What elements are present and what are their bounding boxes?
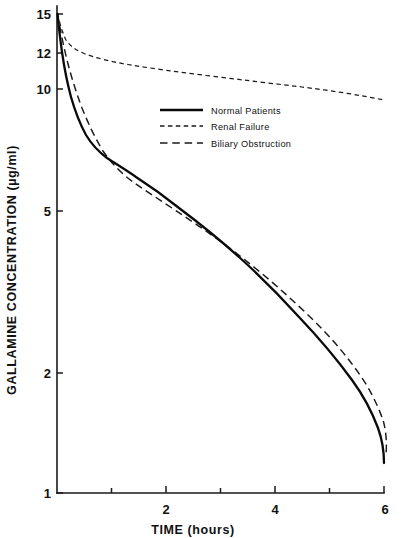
- y-tick-label-2: 2: [44, 366, 51, 381]
- chart-background: [0, 0, 409, 538]
- x-axis-title: TIME (hours): [151, 523, 235, 537]
- legend-label-renal-failure: Renal Failure: [211, 122, 270, 132]
- y-axis-title: GALLAMINE CONCENTRATION (µg/ml): [5, 145, 19, 395]
- legend-label-normal-patients: Normal Patients: [211, 106, 281, 116]
- legend-label-biliary-obstruction: Biliary Obstruction: [211, 139, 291, 149]
- y-tick-label-5: 5: [44, 204, 51, 219]
- y-tick-label-15: 15: [37, 7, 51, 22]
- y-tick-label-1: 1: [44, 486, 51, 501]
- x-tick-label-6: 6: [381, 502, 388, 517]
- y-tick-label-10: 10: [37, 82, 51, 97]
- x-tick-label-2: 2: [162, 502, 169, 517]
- gallamine-concentration-chart: 15 12 10 5 2 1 2 4 6 TIME (hours) GALLAM…: [0, 0, 409, 538]
- x-tick-label-4: 4: [271, 502, 279, 517]
- y-tick-label-12: 12: [37, 46, 51, 61]
